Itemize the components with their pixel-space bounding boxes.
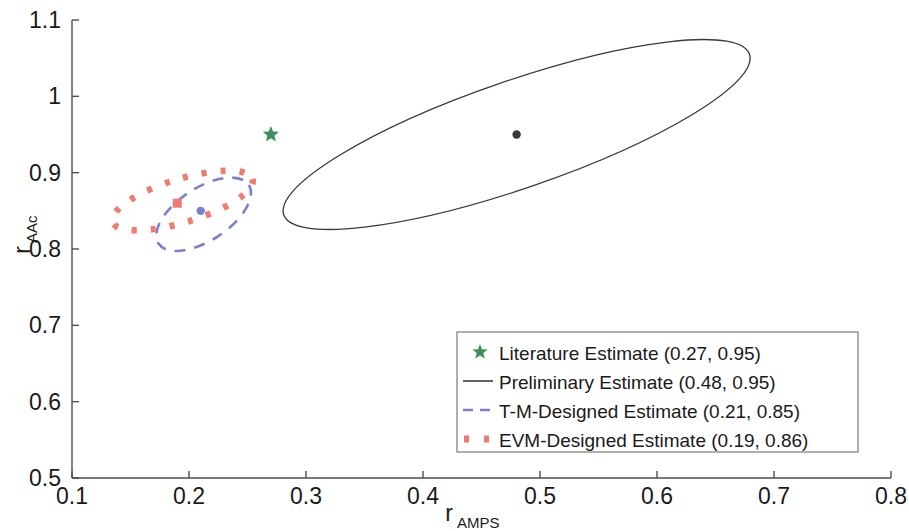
y-tick-label: 0.5 [29,465,61,491]
x-tick-label: 0.8 [875,483,907,509]
legend-item-tm-designed[interactable]: T-M-Designed Estimate (0.21, 0.85) [459,395,856,423]
y-tick-label: 1.1 [29,7,61,33]
legend-item-label: Literature Estimate (0.27, 0.95) [499,343,761,364]
scatter-chart-figure: 0.10.20.30.40.50.60.70.8 0.50.60.70.80.9… [0,0,909,531]
legend[interactable]: Literature Estimate (0.27, 0.95)Prelimin… [457,332,858,452]
x-tick-label: 0.2 [173,483,205,509]
x-axis-title-subscript: AMPS [457,514,500,531]
x-tick-label: 0.7 [758,483,790,509]
y-axis-title-subscript: AAc [23,215,40,243]
x-tick-label: 0.3 [290,483,322,509]
data-point-marker [173,199,182,208]
y-tick-label: 0.6 [29,389,61,415]
legend-item-label: T-M-Designed Estimate (0.21, 0.85) [499,401,800,422]
x-tick-label: 0.5 [524,483,556,509]
legend-item-literature[interactable]: Literature Estimate (0.27, 0.95) [459,337,856,365]
legend-item-preliminary[interactable]: Preliminary Estimate (0.48, 0.95) [459,366,856,394]
y-tick-label: 0.7 [29,312,61,338]
x-tick-label: 0.6 [641,483,673,509]
legend-item-evm-designed[interactable]: EVM-Designed Estimate (0.19, 0.86) [459,424,856,452]
x-tick-label: 0.4 [407,483,439,509]
y-axis-title-base: r [9,246,35,254]
data-point-marker [197,207,205,215]
data-point-marker [512,130,520,138]
chart-canvas: 0.10.20.30.40.50.60.70.8 0.50.60.70.80.9… [0,0,909,531]
legend-item-label: EVM-Designed Estimate (0.19, 0.86) [499,430,808,451]
x-axis-title-base: r [445,500,453,526]
legend-item-label: Preliminary Estimate (0.48, 0.95) [499,372,776,393]
y-tick-label: 1 [48,83,61,109]
y-tick-label: 0.9 [29,160,61,186]
